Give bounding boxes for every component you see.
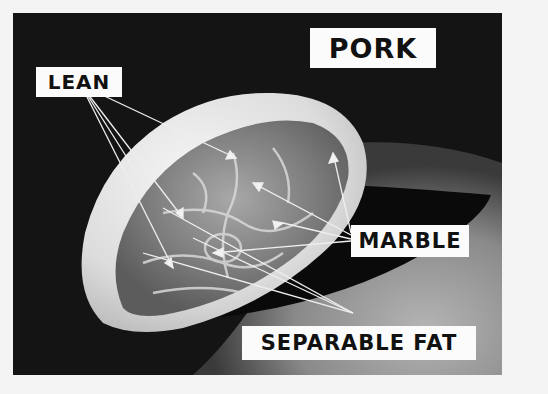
separable-fat-label: SEPARABLE FAT: [242, 326, 476, 360]
title-label: PORK: [310, 28, 436, 68]
lean-label: LEAN: [36, 67, 122, 97]
marble-label: MARBLE: [351, 225, 469, 257]
pork-cut-photo: PORK LEAN MARBLE SEPARABLE FAT: [13, 13, 502, 375]
